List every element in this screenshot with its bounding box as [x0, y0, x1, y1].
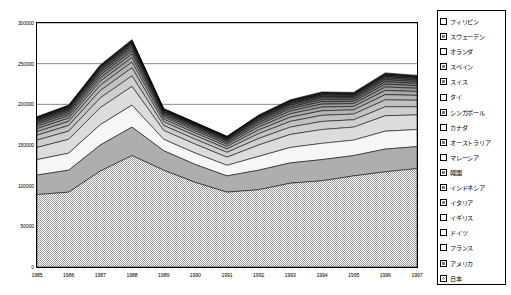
legend-swatch-icon — [440, 260, 447, 267]
x-axis-tick-label: 1988 — [115, 272, 149, 278]
legend-item[interactable]: イギリス — [440, 210, 505, 225]
legend-swatch-icon — [440, 139, 447, 146]
legend-swatch-icon — [440, 109, 447, 116]
x-axis-tick-label: 1995 — [337, 272, 371, 278]
legend-item[interactable]: スイス — [440, 74, 505, 89]
legend-swatch-icon — [440, 124, 447, 131]
legend-swatch-icon — [440, 63, 447, 70]
y-axis-tick-label: 300000 — [2, 20, 34, 26]
legend-swatch-icon — [440, 48, 447, 55]
legend-swatch-icon — [440, 244, 447, 251]
legend-item-label: シンガポール — [450, 105, 485, 120]
y-axis-tick-label: 200000 — [2, 101, 34, 107]
x-axis-tick-label: 1989 — [147, 272, 181, 278]
legend-item-label: 日本 — [450, 271, 462, 286]
legend-item[interactable]: スペイン — [440, 59, 505, 74]
area-series-group — [37, 40, 417, 267]
legend-swatch-icon — [440, 169, 447, 176]
x-axis-tick-label: 1993 — [273, 272, 307, 278]
legend-item[interactable]: マレーシア — [440, 150, 505, 165]
legend-swatch-icon — [440, 94, 447, 101]
legend-item[interactable]: カナダ — [440, 120, 505, 135]
stacked-area-svg — [37, 23, 417, 267]
legend-swatch-icon — [440, 199, 447, 206]
x-axis-tick-label: 1990 — [178, 272, 212, 278]
x-axis-tick-label: 1987 — [83, 272, 117, 278]
legend-item[interactable]: スウェーデン — [440, 29, 505, 44]
legend-swatch-icon — [440, 275, 447, 282]
chart-page: 050000100000150000200000250000300000 198… — [0, 0, 511, 295]
legend-swatch-icon — [440, 214, 447, 221]
legend-item[interactable]: 韓国 — [440, 165, 505, 180]
y-axis-tick-label: 150000 — [2, 142, 34, 148]
legend-item-label: イギリス — [450, 210, 473, 225]
chart-legend: フィリピンスウェーデンオランダスペインスイスタイシンガポールカナダオーストラリア… — [437, 10, 506, 285]
legend-item-label: スペイン — [450, 59, 473, 74]
legend-item[interactable]: アメリカ — [440, 256, 505, 271]
legend-item-label: タイ — [450, 89, 462, 104]
legend-item-label: フランス — [450, 240, 473, 255]
legend-item-label: スイス — [450, 74, 467, 89]
legend-swatch-icon — [440, 18, 447, 25]
legend-item-label: アメリカ — [450, 256, 473, 271]
legend-item-label: オランダ — [450, 44, 473, 59]
legend-item-label: スウェーデン — [450, 29, 485, 44]
x-axis-tick-label: 1992 — [242, 272, 276, 278]
legend-item[interactable]: オーストラリア — [440, 135, 505, 150]
x-axis-tick-label: 1991 — [210, 272, 244, 278]
y-axis-tick-label: 50000 — [2, 223, 34, 229]
x-axis-tick-label: 1996 — [368, 272, 402, 278]
y-axis: 050000100000150000200000250000300000 — [0, 22, 34, 269]
legend-item[interactable]: フランス — [440, 240, 505, 255]
legend-item[interactable]: インドネシア — [440, 180, 505, 195]
legend-item-label: イタリア — [450, 195, 473, 210]
legend-item[interactable]: イタリア — [440, 195, 505, 210]
legend-item[interactable]: シンガポール — [440, 105, 505, 120]
legend-item-label: インドネシア — [450, 180, 485, 195]
x-axis-tick-label: 1994 — [305, 272, 339, 278]
legend-item[interactable]: タイ — [440, 89, 505, 104]
legend-item-label: フィリピン — [450, 14, 479, 29]
legend-item-label: ドイツ — [450, 225, 467, 240]
y-axis-tick-label: 100000 — [2, 183, 34, 189]
y-axis-tick-label: 0 — [2, 264, 34, 270]
legend-swatch-icon — [440, 184, 447, 191]
legend-swatch-icon — [440, 33, 447, 40]
legend-swatch-icon — [440, 229, 447, 236]
legend-swatch-icon — [440, 154, 447, 161]
legend-item[interactable]: フィリピン — [440, 14, 505, 29]
legend-item-label: オーストラリア — [450, 135, 491, 150]
legend-item[interactable]: 日本 — [440, 271, 505, 286]
x-axis-tick-label: 1986 — [52, 272, 86, 278]
legend-item-label: マレーシア — [450, 150, 479, 165]
x-axis-tick-label: 1985 — [20, 272, 54, 278]
plot-area — [36, 22, 418, 268]
legend-swatch-icon — [440, 78, 447, 85]
legend-item[interactable]: オランダ — [440, 44, 505, 59]
legend-item[interactable]: ドイツ — [440, 225, 505, 240]
x-axis-tick-label: 1997 — [400, 272, 434, 278]
y-axis-tick-label: 250000 — [2, 61, 34, 67]
legend-item-label: 韓国 — [450, 165, 462, 180]
legend-item-label: カナダ — [450, 120, 467, 135]
x-axis: 1985198619871988198919901991199219931994… — [36, 272, 419, 286]
